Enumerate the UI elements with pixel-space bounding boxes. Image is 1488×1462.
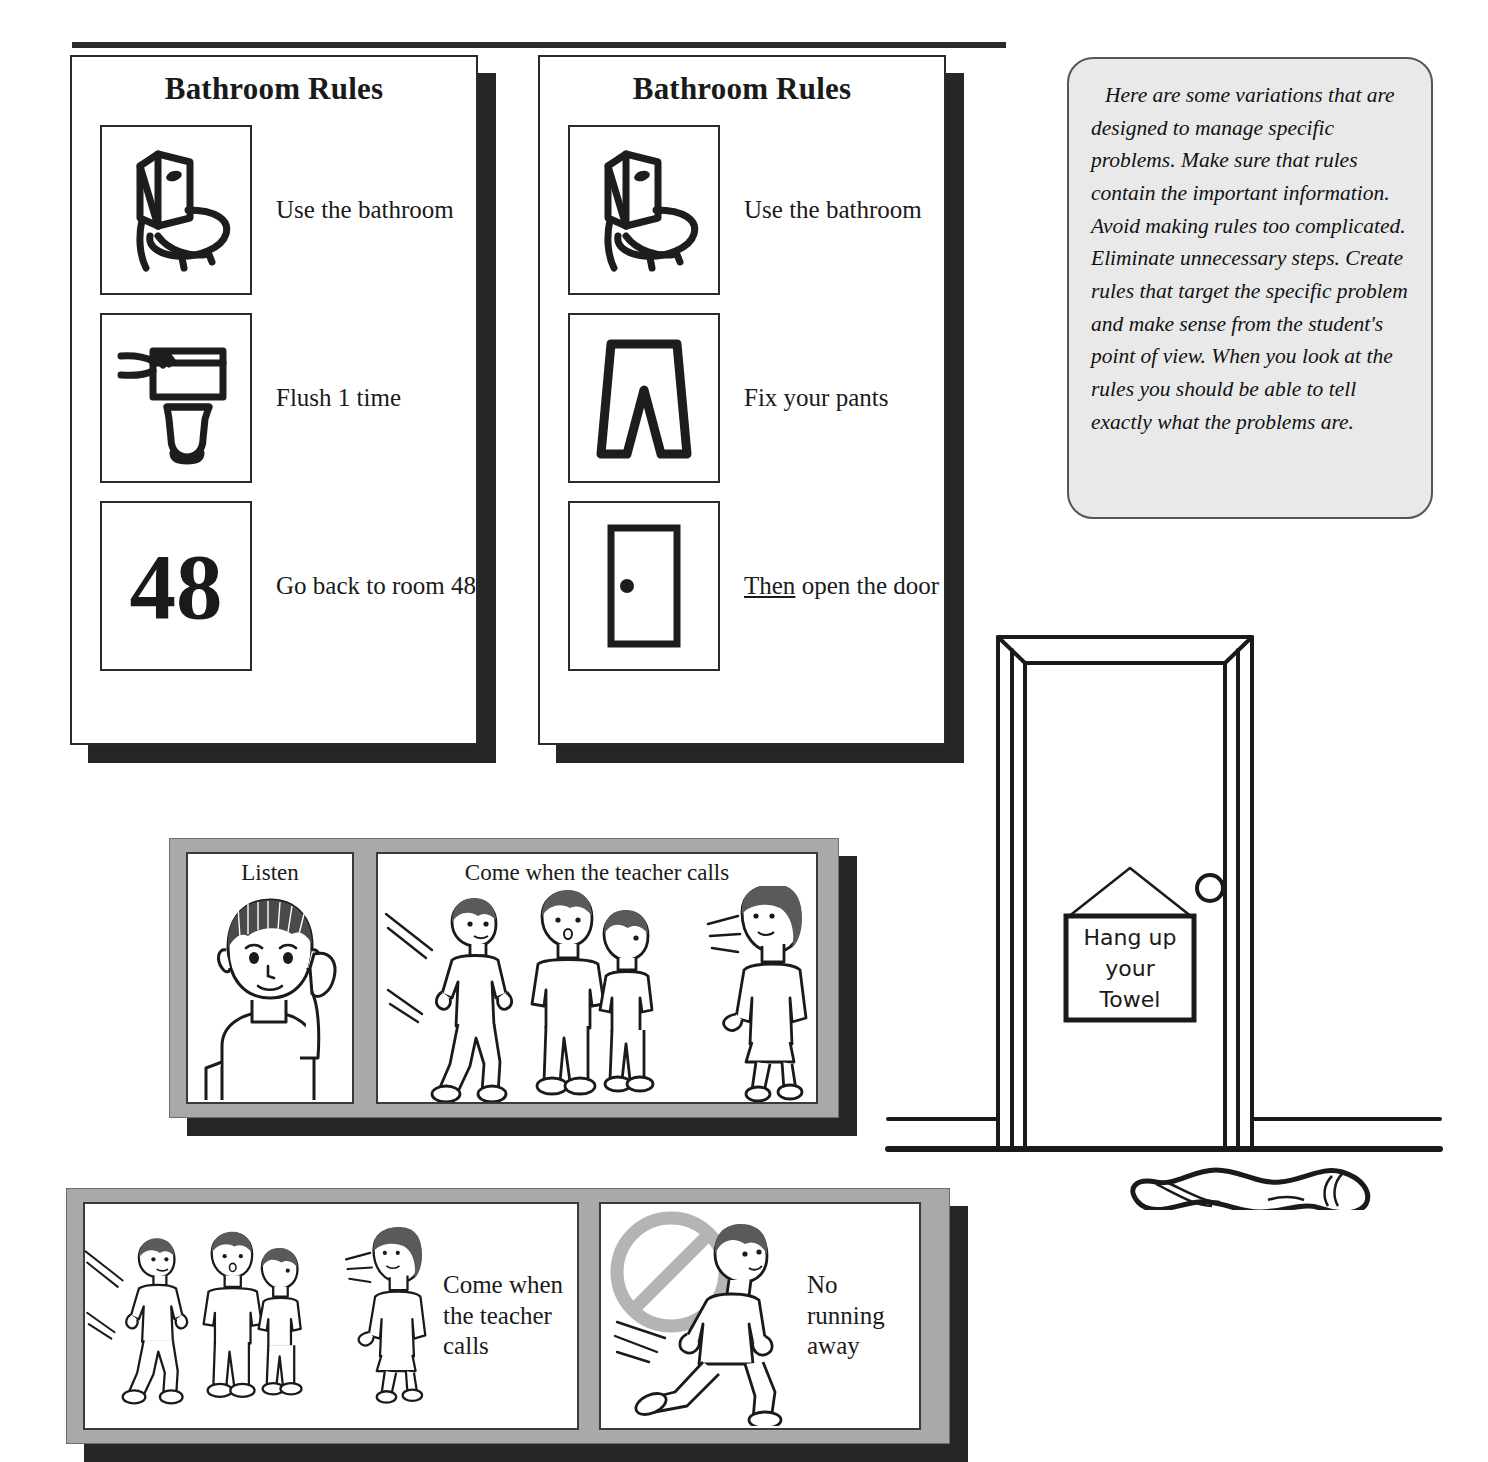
card-title: Bathroom Rules: [72, 71, 476, 107]
toilet-icon: [100, 125, 252, 295]
rule-label: Use the bathroom: [276, 196, 454, 225]
board-surface: Come when the teacher calls: [66, 1188, 950, 1444]
rule-row: Use the bathroom: [540, 125, 944, 295]
tile-caption: Come when the teacher calls: [378, 854, 816, 886]
rule-row: Use the bathroom: [72, 125, 476, 295]
tile-listen: Listen: [186, 852, 354, 1104]
sign-line-2: your: [1070, 953, 1190, 984]
no-running-icon: [603, 1206, 803, 1426]
toilet-icon: [568, 125, 720, 295]
sign-line-1: Hang up: [1070, 922, 1190, 953]
door-icon: [568, 501, 720, 671]
door-knob: [1197, 875, 1223, 901]
tile-come-when-called: Come when the teacher calls: [376, 852, 818, 1104]
sign-line-3: Towel: [1070, 984, 1190, 1015]
header-divider-rule: [72, 42, 1006, 48]
tile-no-running: No running away: [599, 1202, 921, 1430]
room-number-text: 48: [130, 540, 223, 633]
rule-row: Fix your pants: [540, 313, 944, 483]
rule-row: 48 Go back to room 48: [72, 501, 476, 671]
tip-text: Here are some variations that are design…: [1091, 79, 1409, 438]
tile-side-label: No running away: [807, 1270, 919, 1362]
board-surface: Listen: [169, 838, 839, 1118]
tip-callout-box: Here are some variations that are design…: [1067, 57, 1433, 519]
tile-side-label: Come when the teacher calls: [443, 1270, 573, 1362]
bathroom-rules-card-1: Bathroom Rules Use: [70, 55, 478, 745]
rule-row: Flush 1 time: [72, 313, 476, 483]
door-frame-outer: [998, 637, 1252, 1148]
rule-label-rest: open the door: [795, 572, 939, 599]
pants-icon: [568, 313, 720, 483]
rule-label: Go back to room 48: [276, 572, 476, 601]
students-and-teacher-icon: [83, 1206, 435, 1426]
child-listening-icon: [188, 882, 354, 1100]
tile-come-when-called: Come when the teacher calls: [83, 1202, 579, 1430]
card-surface: Bathroom Rules Use: [70, 55, 478, 745]
rule-label: Then open the door: [744, 572, 939, 601]
room-number-icon: 48: [100, 501, 252, 671]
students-and-teacher-icon: [378, 886, 818, 1102]
rule-label-emphasis: Then: [744, 572, 795, 599]
flush-hand-icon: [100, 313, 252, 483]
door-scene: Hang up your Towel: [880, 600, 1480, 1210]
listen-board: Listen: [169, 838, 839, 1118]
rule-label: Fix your pants: [744, 384, 888, 413]
card-title: Bathroom Rules: [540, 71, 944, 107]
rule-label: Use the bathroom: [744, 196, 922, 225]
hanging-sign-text: Hang up your Towel: [1070, 922, 1190, 1016]
come-when-called-board: Come when the teacher calls: [66, 1188, 950, 1444]
rule-label: Flush 1 time: [276, 384, 401, 413]
